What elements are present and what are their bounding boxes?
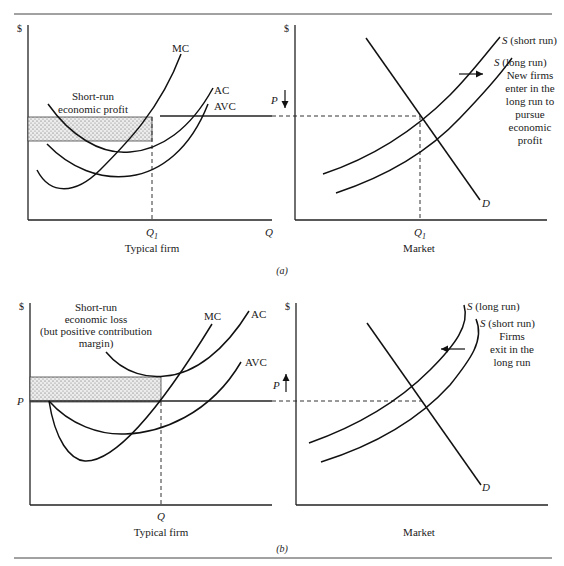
svg-text:New firms: New firms [507,69,554,81]
y-axis-label: $ [17,23,22,34]
economics-figure: $ MC AC AVC Short-run economic profit Q1… [0,0,564,566]
svg-text:margin): margin) [79,337,114,350]
entry-note: New firms enter in the long run to pursu… [505,69,555,146]
avc-label: AVC [214,100,236,112]
svg-text:enter in the: enter in the [505,82,555,94]
supply-long-run-curve [336,58,512,193]
y-axis-label: $ [285,301,290,312]
svg-text:economic loss: economic loss [65,313,128,325]
supply-short-label: S (short run) [480,317,535,330]
panel-b-firm-chart: $ P MC AC AVC Short-run economic loss (b… [16,301,272,538]
ac-label: AC [214,84,229,96]
mc-label: MC [204,310,221,322]
demand-curve [367,323,481,485]
svg-text:long run: long run [494,356,531,368]
price-label-a: P [270,94,278,106]
svg-text:pursue: pursue [515,108,544,120]
svg-text:profit: profit [518,134,542,146]
svg-text:Firms: Firms [499,330,525,342]
demand-label: D [481,481,490,493]
svg-text:Short-run: Short-run [75,301,118,313]
profit-shaded-area [28,117,152,141]
shaded-label-line1: Short-run [72,90,115,102]
svg-text:economic: economic [509,121,552,133]
ac-curve [106,311,249,377]
loss-shaded-area [30,377,161,402]
price-label-b: P [272,379,280,391]
supply-long-run-curve [309,305,465,443]
supply-long-label: S (long run) [494,56,547,69]
firm-title: Typical firm [125,242,180,254]
market-title: Market [403,526,435,538]
ac-label: AC [251,308,266,320]
supply-short-run-curve [323,37,500,174]
x-axis-label: Q [265,226,273,238]
demand-label: D [481,197,490,209]
svg-text:exit in the: exit in the [490,343,534,355]
panel-b-market-chart: $ D S (long run) S (short run) Firms exi… [285,300,548,538]
supply-short-label: S (short run) [502,34,557,47]
panel-a-firm-chart: $ MC AC AVC Short-run economic profit Q1… [17,23,273,254]
price-label: P [16,395,24,407]
supply-long-label: S (long run) [467,300,520,313]
q1-tick: Q1 [414,226,426,241]
market-title: Market [403,242,435,254]
avc-label: AVC [245,356,267,368]
y-axis-label: $ [19,301,24,312]
mc-label: MC [172,42,189,54]
loss-label: Short-run economic loss (but positive co… [40,301,152,350]
panel-a-market-chart: $ D S (short run) S (long run) New firms… [284,23,557,254]
q-tick: Q [157,510,165,522]
svg-text:long run to: long run to [506,95,555,107]
y-axis-label: $ [284,23,289,34]
shaded-label-line2: economic profit [58,103,128,115]
caption-a: (a) [276,265,288,277]
q1-tick: Q1 [146,226,158,241]
caption-b: (b) [276,543,288,555]
firm-title: Typical firm [134,526,189,538]
exit-note: Firms exit in the long run [490,330,534,368]
